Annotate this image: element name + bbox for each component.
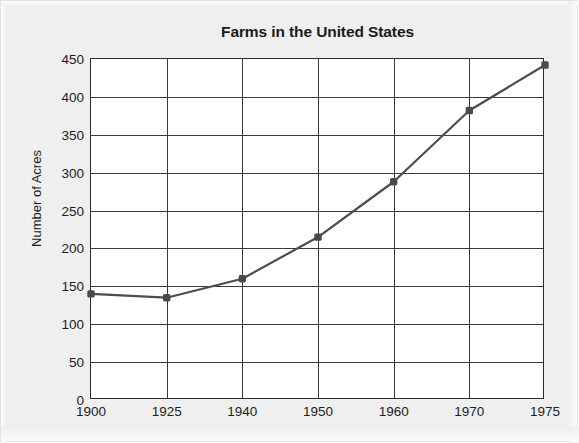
data-point-marker	[466, 107, 473, 114]
plot-area: 050100150200250300350400450 190019251940…	[90, 58, 544, 399]
data-point-marker	[314, 233, 321, 240]
data-point-marker	[390, 178, 397, 185]
x-axis-tick-label: 1960	[379, 404, 409, 419]
series-markers	[87, 61, 548, 301]
x-axis-tick-label: 1925	[152, 404, 182, 419]
x-axis-tick-label: 1940	[227, 404, 257, 419]
x-axis-tick-label: 1950	[303, 404, 333, 419]
y-axis-tick-label: 100	[61, 317, 84, 332]
data-point-marker	[541, 61, 548, 68]
y-axis-tick-label: 250	[61, 203, 84, 218]
y-axis-tick-label: 450	[61, 52, 84, 67]
data-point-marker	[239, 275, 246, 282]
paper-edge-left	[1, 1, 7, 443]
chart-title: Farms in the United States	[90, 23, 545, 41]
y-axis-tick-label: 350	[61, 127, 84, 142]
x-axis-tick-label: 1970	[454, 404, 484, 419]
y-axis-tick-label: 300	[61, 165, 84, 180]
data-point-marker	[87, 290, 94, 297]
y-axis-title: Number of Acres	[29, 129, 44, 269]
y-axis-tick-label: 200	[61, 241, 84, 256]
x-axis-tick-label: 1900	[76, 404, 106, 419]
paper-edge-top	[1, 1, 579, 6]
series-line	[91, 65, 545, 298]
data-point-marker	[163, 294, 170, 301]
data-series-layer	[91, 59, 545, 400]
x-axis-tick-label: 1975	[530, 404, 560, 419]
y-axis-tick-label: 50	[69, 355, 84, 370]
paper-edge-right	[567, 1, 577, 443]
y-axis-tick-label: 400	[61, 89, 84, 104]
paper-edge-bottom	[1, 427, 579, 441]
y-axis-tick-label: 150	[61, 279, 84, 294]
